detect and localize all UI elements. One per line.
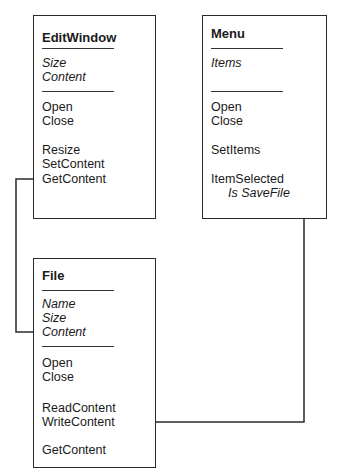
method: Open: [211, 100, 242, 114]
class-title-file: File: [42, 268, 64, 283]
divider: [42, 48, 114, 49]
method: Open: [42, 356, 73, 370]
method: GetContent: [42, 443, 106, 457]
divider: [42, 91, 114, 92]
method: ReadContent: [42, 401, 116, 415]
attribute: Size: [42, 311, 66, 325]
divider: [42, 290, 114, 291]
method: Close: [211, 114, 243, 128]
attribute: Content: [42, 70, 86, 84]
divider: [42, 346, 114, 347]
annotation: Is SaveFile: [228, 186, 290, 200]
method: Close: [42, 370, 74, 384]
divider: [211, 48, 283, 49]
method: WriteContent: [42, 415, 115, 429]
attribute: Content: [42, 325, 86, 339]
attribute: Items: [211, 56, 242, 70]
class-title-editwindow: EditWindow: [42, 30, 116, 45]
attribute: Name: [42, 297, 75, 311]
method: Resize: [42, 143, 80, 157]
method: ItemSelected: [211, 172, 284, 186]
divider: [211, 91, 283, 92]
method: Open: [42, 100, 73, 114]
method: GetContent: [42, 172, 106, 186]
attribute: Size: [42, 56, 66, 70]
method: Close: [42, 114, 74, 128]
method: SetItems: [211, 143, 260, 157]
class-title-menu: Menu: [211, 26, 245, 41]
method: SetContent: [42, 157, 105, 171]
